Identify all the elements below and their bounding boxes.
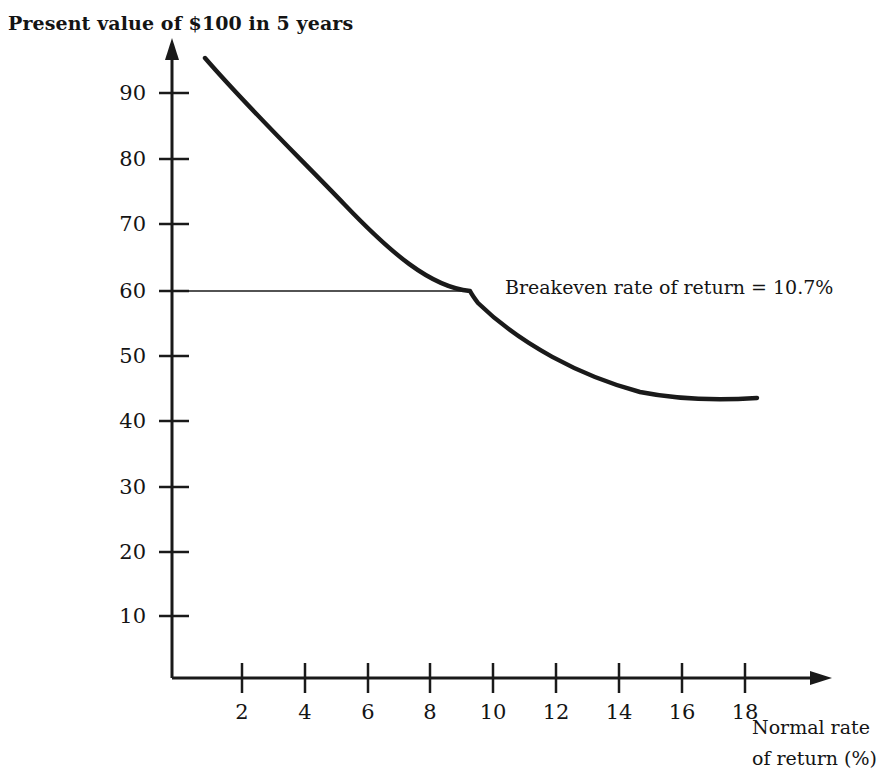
chart-figure: Present value of $100 in 5 years	[0, 0, 881, 778]
y-tick-label: 90	[100, 81, 146, 105]
y-axis-arrow-icon	[165, 38, 179, 60]
y-tick-label: 20	[100, 540, 146, 564]
y-tick-label: 80	[100, 147, 146, 171]
present-value-curve	[205, 58, 757, 399]
x-tick-label: 8	[423, 700, 436, 724]
y-tick-label: 70	[100, 212, 146, 236]
x-tick-label: 6	[361, 700, 374, 724]
x-axis-title-line-1: Normal rate	[752, 712, 877, 743]
chart-canvas	[0, 0, 881, 778]
x-axis-title: Normal rate of return (%)	[752, 712, 877, 774]
breakeven-annotation-label: Breakeven rate of return = 10.7%	[505, 276, 833, 298]
y-axis-ticks	[159, 93, 189, 616]
y-tick-label: 50	[100, 344, 146, 368]
y-tick-label: 10	[100, 604, 146, 628]
x-tick-label: 4	[298, 700, 311, 724]
y-tick-label: 40	[100, 409, 146, 433]
x-tick-label: 16	[669, 700, 696, 724]
x-tick-label: 2	[235, 700, 248, 724]
x-tick-label: 10	[480, 700, 507, 724]
x-axis-title-line-2: of return (%)	[752, 743, 877, 774]
y-tick-label: 60	[100, 279, 146, 303]
x-tick-label: 12	[543, 700, 570, 724]
x-tick-label: 14	[606, 700, 633, 724]
y-tick-label: 30	[100, 475, 146, 499]
x-axis-arrow-icon	[810, 671, 832, 685]
